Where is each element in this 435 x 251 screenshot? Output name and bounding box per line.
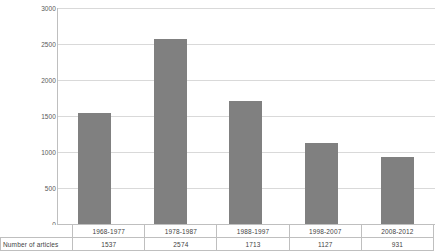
ytick-label-3000: 3000 [4, 5, 56, 12]
value-cell-2: 2574 [145, 238, 217, 251]
value-cell-3: 1713 [217, 238, 289, 251]
category-cell-4: 1998-2007 [289, 225, 361, 238]
bar-1968-1977[interactable] [78, 113, 111, 224]
category-cell-1: 1968-1977 [73, 225, 145, 238]
bar-slot-1988-1997 [208, 8, 284, 224]
table-row-values: Number of articles 1537 2574 1713 1127 9… [1, 238, 434, 251]
value-cell-1: 1537 [73, 238, 145, 251]
bar-1978-1987[interactable] [154, 39, 187, 224]
value-cell-5: 931 [361, 238, 433, 251]
table-row-header: Number of articles [1, 238, 73, 251]
bar-slot-1998-2007 [284, 8, 360, 224]
bar-2008-2012[interactable] [381, 157, 414, 224]
table-row-categories: 1968-1977 1978-1987 1988-1997 1998-2007 … [1, 225, 434, 238]
bar-1998-2007[interactable] [305, 143, 338, 224]
ytick-label-500: 500 [4, 185, 56, 192]
ytick-label-1000: 1000 [4, 149, 56, 156]
ytick-label-2500: 2500 [4, 41, 56, 48]
table-corner-cell [1, 225, 73, 238]
value-cell-4: 1127 [289, 238, 361, 251]
bar-slot-2008-2012 [359, 8, 435, 224]
plot-area: 3000 2500 2000 1500 1000 500 0 [0, 0, 435, 225]
bar-chart-figure: 3000 2500 2000 1500 1000 500 0 [0, 0, 435, 251]
category-cell-2: 1978-1987 [145, 225, 217, 238]
bar-slot-1968-1977 [57, 8, 133, 224]
bars-layer [57, 0, 435, 225]
data-table: 1968-1977 1978-1987 1988-1997 1998-2007 … [0, 224, 434, 251]
bar-slot-1978-1987 [133, 8, 209, 224]
bar-1988-1997[interactable] [229, 101, 262, 224]
ytick-label-1500: 1500 [4, 113, 56, 120]
category-cell-5: 2008-2012 [361, 225, 433, 238]
ytick-label-2000: 2000 [4, 77, 56, 84]
category-cell-3: 1988-1997 [217, 225, 289, 238]
